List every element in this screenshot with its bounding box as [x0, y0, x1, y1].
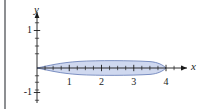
- x-tick-label-1: 1: [63, 77, 75, 87]
- x-tick-label-3: 3: [128, 77, 140, 87]
- x-tick-label-2: 2: [96, 77, 108, 87]
- x-tick-label-4: 4: [160, 77, 172, 87]
- y-tick-label-1: 1: [22, 25, 32, 35]
- math-figure: y x 1 -1 1 2 3 4: [0, 0, 204, 109]
- y-axis-label: y: [34, 4, 39, 15]
- x-axis-label: x: [191, 61, 196, 72]
- y-tick-label-minus-1: -1: [16, 87, 32, 97]
